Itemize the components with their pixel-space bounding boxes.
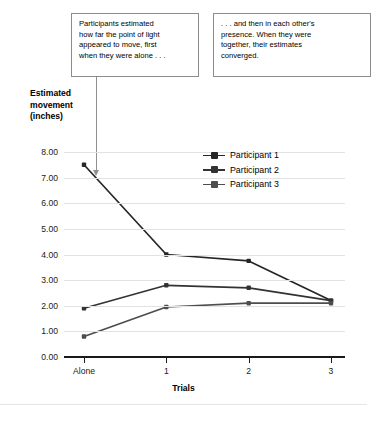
callout-right-text: . . . and then in each other's presence.… [221, 19, 364, 61]
gridline [64, 203, 345, 204]
legend-marker-icon [203, 150, 225, 160]
series-data-point[interactable] [329, 301, 333, 305]
legend-item-1[interactable]: Participant 1 [203, 148, 323, 163]
series-data-point[interactable] [247, 259, 251, 263]
series-data-point[interactable] [82, 163, 86, 167]
gridline [64, 331, 345, 332]
x-axis-tick-mark [84, 358, 85, 363]
callout-box-left: Participants estimated how far the point… [71, 13, 199, 77]
x-axis-title: Trials [0, 383, 367, 393]
x-axis-tick-mark [249, 358, 250, 363]
y-axis-tick-label: 4.00 [41, 250, 58, 260]
legend-marker-icon [203, 179, 225, 189]
legend-marker-icon [203, 165, 225, 175]
gridline [64, 229, 345, 230]
legend-item-3[interactable]: Participant 3 [203, 177, 323, 192]
gridline [64, 306, 345, 307]
y-axis-tick-label: 1.00 [41, 326, 58, 336]
callout-left-text: Participants estimated how far the point… [79, 19, 192, 61]
legend-item-2[interactable]: Participant 2 [203, 163, 323, 178]
gridline [64, 280, 345, 281]
legend-item-label: Participant 2 [230, 165, 279, 175]
x-axis-tick-label: 2 [246, 366, 251, 376]
y-axis-tick-label: 8.00 [41, 147, 58, 157]
series-data-point[interactable] [247, 286, 251, 290]
figure-bottom-divider [0, 404, 367, 405]
series-data-point[interactable] [82, 334, 86, 338]
callout-box-right: . . . and then in each other's presence.… [213, 13, 371, 77]
legend-item-label: Participant 1 [230, 150, 279, 160]
y-axis-tick-label: 3.00 [41, 275, 58, 285]
y-axis-tick-label: 5.00 [41, 224, 58, 234]
x-axis-tick-label: 1 [164, 366, 169, 376]
y-axis-tick-label: 0.00 [41, 352, 58, 362]
y-axis-tick-label: 7.00 [41, 173, 58, 183]
x-axis-line [64, 356, 345, 358]
x-axis-tick-label: Alone [73, 366, 95, 376]
series-data-point[interactable] [164, 283, 168, 287]
x-axis-tick-mark [166, 358, 167, 363]
x-axis-tick-label: 3 [329, 366, 334, 376]
y-axis-tick-label: 2.00 [41, 301, 58, 311]
gridline [64, 255, 345, 256]
series-data-point[interactable] [247, 301, 251, 305]
x-axis-tick-mark [331, 358, 332, 363]
y-axis-tick-label: 6.00 [41, 198, 58, 208]
legend-item-label: Participant 3 [230, 179, 279, 189]
chart-legend: Participant 1Participant 2Participant 3 [203, 148, 323, 192]
y-axis-tick-labels: 0.001.002.003.004.005.006.007.008.00 [0, 0, 58, 421]
